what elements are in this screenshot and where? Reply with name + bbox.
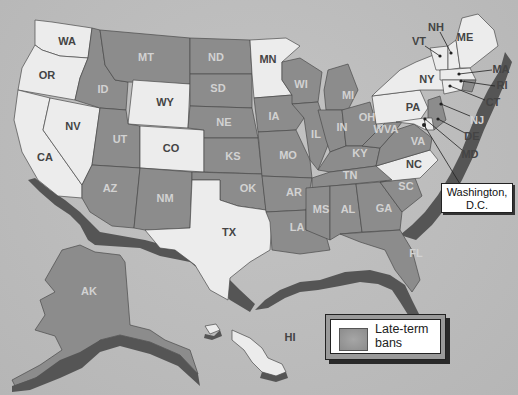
label-NV: NV: [65, 120, 81, 132]
label-MN: MN: [259, 53, 276, 65]
label-WY: WY: [156, 96, 174, 108]
legend-label-line2: bans: [375, 336, 435, 350]
label-IN: IN: [337, 121, 348, 133]
state-MI: [324, 64, 358, 110]
extrusion-gulf: [255, 270, 420, 318]
label-IA: IA: [269, 110, 280, 122]
legend-label-line1: Late-term: [375, 322, 435, 336]
label-CT: CT: [486, 96, 501, 108]
label-HI: HI: [285, 331, 296, 343]
legend-swatch-late-term-bans: [339, 328, 368, 351]
dc-callout: Washington, D.C.: [441, 183, 513, 213]
label-OR: OR: [39, 69, 56, 81]
label-AZ: AZ: [103, 182, 118, 194]
label-NE: NE: [216, 116, 231, 128]
label-CA: CA: [37, 151, 53, 163]
dc-callout-line1: Washington,: [442, 186, 512, 199]
label-VA: VA: [411, 135, 426, 147]
label-SD: SD: [210, 82, 225, 94]
label-NH: NH: [428, 21, 444, 33]
label-KS: KS: [225, 150, 240, 162]
label-MT: MT: [138, 51, 154, 63]
label-NJ: NJ: [470, 114, 484, 126]
label-AK: AK: [81, 285, 97, 297]
label-RI: RI: [497, 79, 508, 91]
label-LA: LA: [290, 221, 305, 233]
label-ND: ND: [208, 51, 224, 63]
label-GA: GA: [376, 202, 393, 214]
label-NC: NC: [406, 158, 422, 170]
label-PA: PA: [406, 101, 421, 113]
label-TX: TX: [222, 226, 237, 238]
label-SC: SC: [398, 180, 413, 192]
label-DE: DE: [464, 130, 479, 142]
label-WVA: WVA: [374, 123, 399, 135]
label-VT: VT: [412, 35, 426, 47]
label-FL: FL: [409, 247, 423, 259]
state-HI: [205, 324, 286, 376]
label-NY: NY: [419, 73, 435, 85]
label-MO: MO: [279, 149, 297, 161]
label-ME: ME: [457, 31, 474, 43]
label-KY: KY: [352, 147, 368, 159]
state-AK: [12, 245, 198, 386]
label-OH: OH: [359, 111, 376, 123]
legend-panel: Late-term bans: [330, 319, 441, 354]
label-UT: UT: [113, 133, 128, 145]
label-AL: AL: [341, 203, 356, 215]
dc-callout-line2: D.C.: [442, 199, 512, 212]
label-AR: AR: [286, 186, 302, 198]
label-TN: TN: [343, 169, 358, 181]
us-map-figure: WA OR CA NV ID MT WY UT CO AZ NM ND SD N…: [0, 0, 518, 395]
label-MD: MD: [461, 148, 478, 160]
label-CO: CO: [163, 142, 180, 154]
label-OK: OK: [240, 182, 257, 194]
label-ID: ID: [98, 83, 109, 95]
label-IL: IL: [311, 128, 321, 140]
label-WI: WI: [294, 78, 307, 90]
state-AZ: [82, 165, 140, 228]
label-MI: MI: [342, 89, 354, 101]
label-NM: NM: [156, 192, 173, 204]
legend: Late-term bans: [325, 314, 446, 360]
legend-label: Late-term bans: [375, 322, 435, 350]
label-WA: WA: [58, 35, 76, 47]
label-MS: MS: [313, 203, 330, 215]
label-MA: MA: [492, 63, 509, 75]
